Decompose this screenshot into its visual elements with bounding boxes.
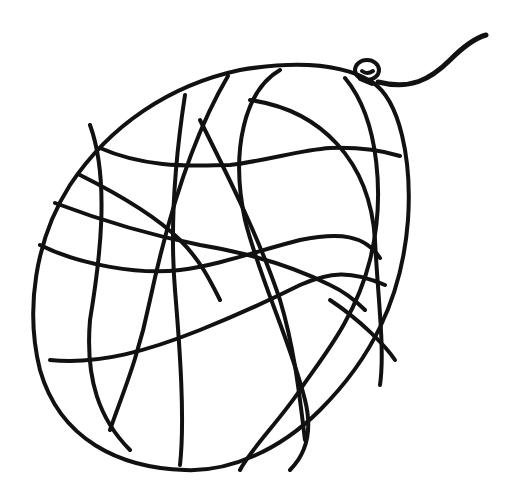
balloon-drawing bbox=[0, 0, 517, 493]
balloon-string bbox=[378, 35, 486, 85]
net-pattern bbox=[40, 70, 400, 470]
drawing-canvas: balloon line drawing bbox=[0, 0, 517, 493]
